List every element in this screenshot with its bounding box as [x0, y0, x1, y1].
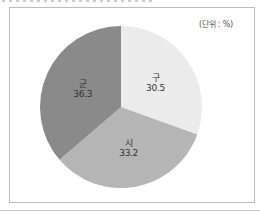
bottom-rule [0, 210, 260, 211]
pie-chart [0, 0, 260, 217]
slice-name: 군 [63, 79, 103, 89]
slice-name: 구 [135, 73, 175, 83]
slice-value: 33.2 [109, 148, 149, 158]
slice-name: 시 [109, 138, 149, 148]
slice-value: 30.5 [135, 83, 175, 93]
slice-label-si: 시 33.2 [109, 138, 149, 158]
slice-label-gun: 군 36.3 [63, 79, 103, 99]
slice-value: 36.3 [63, 89, 103, 99]
slice-label-gu: 구 30.5 [135, 73, 175, 93]
